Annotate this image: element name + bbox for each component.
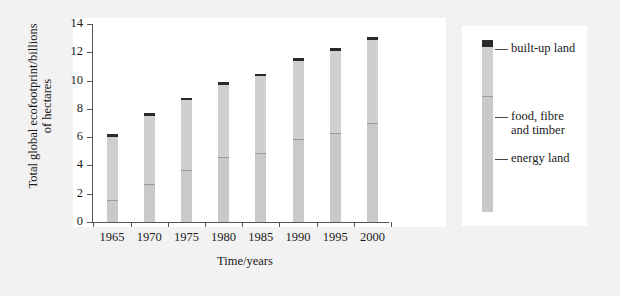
bar-segment-food-fibre-timber: [144, 116, 155, 184]
x-axis-tick-label-1990: 1990: [278, 231, 318, 244]
legend-label-energy-land[interactable]: energy land: [511, 151, 569, 165]
y-axis-line: [92, 24, 93, 223]
x-axis-tick: [168, 222, 169, 227]
x-axis-title: Time/years: [150, 254, 340, 269]
bar-divider-energy-food: [255, 153, 266, 154]
legend-panel: built-up landfood, fibre and timberenerg…: [462, 26, 587, 226]
y-axis-tick-label: 4: [53, 158, 83, 171]
x-axis-tick-label-2000: 2000: [352, 231, 392, 244]
legend-leader-line: [495, 117, 508, 118]
y-axis-tick-label: 6: [53, 130, 83, 143]
bar-segment-energy-land: [181, 170, 192, 222]
bar-segment-energy-land: [255, 153, 266, 222]
y-axis-tick: [87, 137, 92, 138]
y-axis-title-line2: of hectares: [40, 79, 54, 133]
y-axis-tick: [87, 194, 92, 195]
bar-segment-food-fibre-timber: [255, 76, 266, 152]
bar-1995[interactable]: [330, 48, 341, 222]
bar-segment-food-fibre-timber: [181, 100, 192, 169]
legend-segment-built-up-land: [482, 40, 493, 47]
y-axis-title: Total global ecofootprint/billionsof hec…: [26, 6, 54, 206]
y-axis-tick: [87, 222, 92, 223]
bar-segment-energy-land: [330, 133, 341, 222]
x-axis-tick: [242, 222, 243, 227]
x-axis-tick: [279, 222, 280, 227]
bar-divider-energy-food: [330, 133, 341, 134]
x-axis-tick: [391, 222, 392, 227]
bar-segment-energy-land: [218, 157, 229, 222]
x-axis-tick: [205, 222, 206, 227]
bar-2000[interactable]: [367, 37, 378, 222]
bar-segment-food-fibre-timber: [107, 137, 118, 200]
figure-canvas: Total global ecofootprint/billionsof hec…: [0, 0, 620, 296]
bar-1985[interactable]: [255, 74, 266, 223]
y-axis-tick: [87, 52, 92, 53]
bar-segment-food-fibre-timber: [293, 61, 304, 139]
bar-divider-energy-food: [107, 200, 118, 201]
y-axis-tick-label: 14: [53, 17, 83, 30]
bar-divider-energy-food: [218, 157, 229, 158]
bar-segment-energy-land: [107, 200, 118, 222]
legend-divider-line: [482, 96, 493, 97]
x-axis-tick: [354, 222, 355, 227]
legend-segment-energy-land: [482, 96, 493, 212]
bar-divider-energy-food: [181, 170, 192, 171]
bar-segment-food-fibre-timber: [218, 85, 229, 157]
x-axis-tick: [131, 222, 132, 227]
x-axis-tick-label-1965: 1965: [92, 231, 132, 244]
legend-label-food-fibre-and-timber[interactable]: food, fibre and timber: [511, 109, 565, 138]
x-axis-tick-label-1985: 1985: [241, 231, 281, 244]
x-axis-tick-label-1980: 1980: [204, 231, 244, 244]
y-axis-tick-label: 0: [53, 215, 83, 228]
legend-segment-food-fibre-timber: [482, 47, 493, 96]
bar-1990[interactable]: [293, 58, 304, 222]
y-axis-tick-label: 12: [53, 45, 83, 58]
x-axis-tick-label-1970: 1970: [129, 231, 169, 244]
x-axis-tick-label-1975: 1975: [166, 231, 206, 244]
x-axis-tick: [93, 222, 94, 227]
y-axis-tick: [87, 165, 92, 166]
y-axis-tick: [87, 24, 92, 25]
x-axis-tick: [317, 222, 318, 227]
bar-divider-energy-food: [367, 123, 378, 124]
y-axis-tick-label: 10: [53, 74, 83, 87]
bar-1970[interactable]: [144, 113, 155, 222]
y-axis-tick: [87, 81, 92, 82]
legend-sample-bar: [482, 40, 493, 212]
bar-segment-energy-land: [367, 123, 378, 222]
y-axis-tick-label: 2: [53, 187, 83, 200]
bar-1965[interactable]: [107, 134, 118, 222]
y-axis-tick-label: 8: [53, 102, 83, 115]
x-axis-tick-label-1995: 1995: [315, 231, 355, 244]
bar-segment-food-fibre-timber: [367, 40, 378, 123]
bar-divider-energy-food: [144, 184, 155, 185]
bar-segment-food-fibre-timber: [330, 51, 341, 133]
bar-1980[interactable]: [218, 82, 229, 222]
bar-segment-energy-land: [293, 139, 304, 222]
legend-label-built-up-land[interactable]: built-up land: [511, 41, 575, 55]
legend-leader-line: [495, 159, 508, 160]
bar-segment-energy-land: [144, 184, 155, 222]
x-axis-line: [92, 222, 389, 223]
bar-divider-energy-food: [293, 139, 304, 140]
y-axis-tick: [87, 109, 92, 110]
legend-leader-line: [495, 49, 508, 50]
bar-1975[interactable]: [181, 98, 192, 222]
y-axis-title-line1: Total global ecofootprint/billions: [26, 23, 40, 188]
